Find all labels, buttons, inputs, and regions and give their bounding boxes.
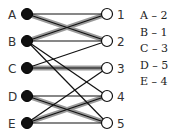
- matching-item: D – 5: [140, 58, 168, 75]
- right-node-4: [102, 91, 113, 102]
- left-node-B: [22, 36, 33, 47]
- matching-item: A – 2: [140, 8, 168, 25]
- left-node-label: A: [8, 8, 17, 22]
- matching-item: C – 3: [140, 41, 168, 58]
- left-node-label: D: [8, 90, 17, 104]
- matching-item: B – 1: [140, 25, 168, 42]
- right-node-2: [102, 36, 113, 47]
- left-node-label: B: [8, 35, 16, 49]
- matching-item: E – 4: [140, 74, 168, 91]
- left-node-D: [22, 91, 33, 102]
- left-node-label: C: [8, 62, 16, 76]
- left-node-label: E: [8, 117, 16, 131]
- left-node-E: [22, 118, 33, 129]
- right-node-label: 4: [117, 90, 125, 104]
- right-node-label: 1: [117, 8, 125, 22]
- right-node-3: [102, 63, 113, 74]
- right-node-label: 2: [117, 35, 125, 49]
- right-node-5: [102, 118, 113, 129]
- edge-C-2: [27, 41, 107, 68]
- edge-layer: [27, 14, 107, 123]
- matching-list: A – 2 B – 1 C – 3 D – 5 E – 4: [140, 8, 168, 91]
- left-node-C: [22, 63, 33, 74]
- right-node-label: 3: [117, 62, 125, 76]
- right-node-1: [102, 9, 113, 20]
- bipartite-graph: ABCDE12345: [0, 0, 135, 140]
- right-node-label: 5: [117, 117, 125, 131]
- left-node-A: [22, 9, 33, 20]
